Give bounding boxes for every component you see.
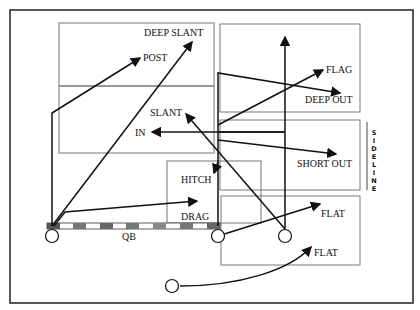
label-drag: DRAG [181, 211, 209, 222]
svg-text:E: E [372, 185, 376, 193]
svg-text:D: D [371, 145, 377, 153]
label-in: IN [135, 127, 146, 138]
svg-text:L: L [372, 161, 376, 169]
player-back [166, 280, 179, 293]
label-flat-upper: FLAT [321, 208, 345, 219]
label-flat-lower: FLAT [314, 247, 338, 258]
svg-text:S: S [372, 129, 377, 137]
route-short-out [218, 140, 336, 154]
player-right-receiver [279, 230, 292, 243]
label-hitch: HITCH [181, 174, 212, 185]
label-slant: SLANT [150, 107, 182, 118]
route-tree-diagram: S I D E L I N E DEEP SLANT POST SLANT [0, 0, 420, 310]
svg-text:I: I [373, 169, 375, 177]
label-qb: QB [122, 231, 136, 242]
label-deep-out: DEEP OUT [305, 94, 353, 105]
route-drag [54, 201, 197, 226]
label-deep-slant: DEEP SLANT [144, 27, 203, 38]
outer-frame [10, 10, 413, 303]
label-short-out: SHORT OUT [297, 158, 352, 169]
player-middle-receiver [212, 230, 225, 243]
svg-text:I: I [373, 137, 375, 145]
svg-text:N: N [371, 177, 376, 185]
zone-short-right [220, 120, 360, 190]
line-of-scrimmage [47, 223, 220, 229]
label-flag: FLAG [326, 64, 352, 75]
svg-text:E: E [372, 153, 376, 161]
route-flat-lower [180, 247, 311, 286]
player-left-receiver [46, 230, 59, 243]
route-flat-upper [218, 204, 320, 236]
zone-flat [221, 196, 360, 265]
label-post: POST [143, 52, 167, 63]
sideline-label: S I D E L I N E [371, 129, 377, 193]
route-post [52, 58, 140, 226]
